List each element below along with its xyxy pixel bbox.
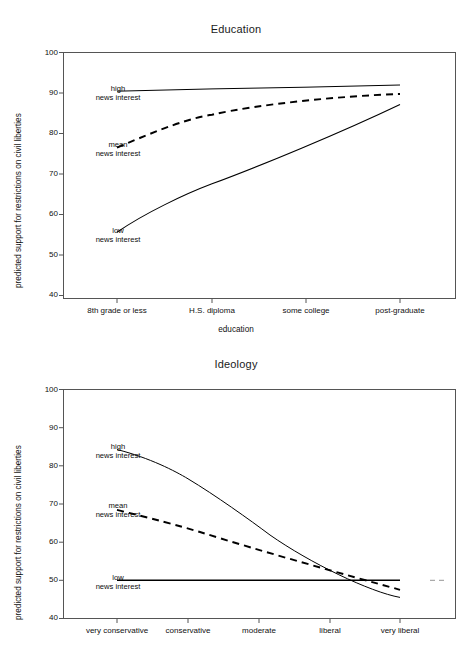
series-label-low-ideology: low news interest bbox=[96, 573, 141, 592]
x-tick-label-post-graduate: post-graduate bbox=[375, 306, 424, 315]
series-line-low-education bbox=[117, 104, 400, 232]
x-tick-label-conservative: conservative bbox=[166, 626, 211, 635]
x-tick-label-very-conservative: very conservative bbox=[86, 626, 148, 635]
x-tick-label-liberal: liberal bbox=[319, 626, 340, 635]
series-label-mean-line1: mean bbox=[96, 501, 141, 510]
series-label-high-education: high news interest bbox=[96, 84, 141, 103]
series-label-high-line2: news interest bbox=[96, 451, 141, 460]
x-tick-label-8th-grade: 8th grade or less bbox=[87, 306, 147, 315]
series-label-low-line2: news interest bbox=[96, 235, 141, 244]
series-line-high-education bbox=[117, 85, 400, 91]
series-line-high-ideology bbox=[117, 450, 400, 598]
series-label-high-ideology: high news interest bbox=[96, 442, 141, 461]
x-tick-marks bbox=[117, 619, 400, 624]
y-tick-marks bbox=[59, 390, 64, 619]
series-label-high-line1: high bbox=[96, 442, 141, 451]
x-tick-marks bbox=[117, 299, 400, 304]
plot-area-education bbox=[0, 0, 472, 330]
plot-area-ideology bbox=[0, 330, 472, 657]
series-label-mean-ideology: mean news interest bbox=[96, 501, 141, 520]
series-label-low-line1: low bbox=[96, 226, 141, 235]
chart-education: Education predicted support for restrict… bbox=[0, 0, 472, 330]
series-label-low-line1: low bbox=[96, 573, 141, 582]
x-tick-label-very-liberal: very liberal bbox=[381, 626, 420, 635]
series-label-mean-line2: news interest bbox=[96, 510, 141, 519]
series-label-mean-education: mean news interest bbox=[96, 140, 141, 159]
series-label-mean-line2: news interest bbox=[96, 149, 141, 158]
x-tick-label-moderate: moderate bbox=[242, 626, 276, 635]
x-tick-label-hs-diploma: H.S. diploma bbox=[189, 306, 235, 315]
series-label-mean-line1: mean bbox=[96, 140, 141, 149]
chart-ideology: Ideology predicted support for restricti… bbox=[0, 330, 472, 657]
series-label-high-line2: news interest bbox=[96, 93, 141, 102]
series-label-high-line1: high bbox=[96, 84, 141, 93]
series-label-low-line2: news interest bbox=[96, 582, 141, 591]
y-tick-marks bbox=[59, 53, 64, 296]
series-label-low-education: low news interest bbox=[96, 226, 141, 245]
series-line-mean-education bbox=[117, 94, 400, 148]
x-tick-label-some-college: some college bbox=[282, 306, 329, 315]
series-line-mean-ideology bbox=[117, 510, 400, 590]
